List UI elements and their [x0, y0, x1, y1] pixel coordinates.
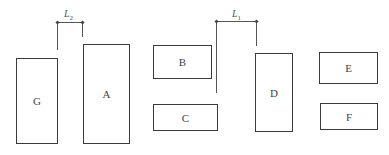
- l1-tick-left: [214, 19, 218, 23]
- l2-label: L2: [64, 8, 73, 22]
- box-c: C: [153, 104, 218, 131]
- box-g-label: G: [33, 95, 41, 107]
- box-b: B: [153, 45, 212, 79]
- box-a-label: A: [103, 88, 111, 100]
- l2-extension-left: [57, 21, 58, 50]
- l1-extension-left: [216, 20, 217, 93]
- l1-label: L1: [232, 8, 241, 22]
- box-d: D: [255, 53, 293, 132]
- box-f-label: F: [346, 111, 352, 123]
- l1-tick-right: [254, 19, 258, 23]
- l2-tick-left: [55, 20, 59, 24]
- box-b-label: B: [179, 56, 186, 68]
- box-g: G: [16, 58, 58, 144]
- box-e-label: E: [345, 62, 352, 74]
- l2-tick-right: [80, 20, 84, 24]
- box-c-label: C: [182, 112, 189, 124]
- box-f: F: [320, 103, 378, 130]
- box-a: A: [83, 44, 130, 144]
- box-d-label: D: [270, 87, 278, 99]
- box-e: E: [319, 52, 378, 84]
